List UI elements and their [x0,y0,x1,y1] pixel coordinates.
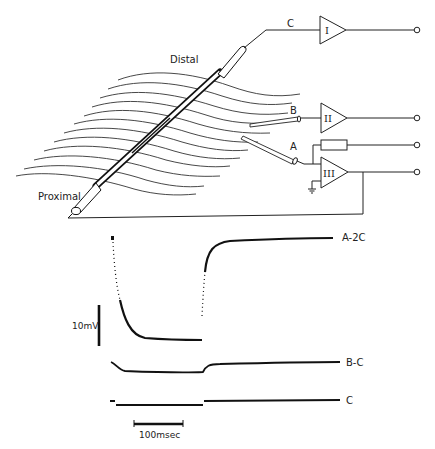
return-wire [68,172,363,218]
voltage-scale-bar: 10mV [72,305,99,346]
trace-label-a-2c: A-2C [342,232,366,243]
electrode-b: B [250,105,321,127]
amplifier-1-label: I [325,25,329,36]
nerve-fibers [16,73,300,195]
ground-icon [308,189,316,193]
electrode-a: A [241,136,313,165]
trace-c: C [110,395,353,406]
amplifier-1: I [320,16,420,44]
figure-canvas: Distal Proximal C I B II A III [0,0,435,449]
label-electrode-a: A [290,141,297,152]
amplifier-2-label: II [324,113,332,124]
output-terminal-2 [414,115,420,121]
amplifier-2: II [321,103,420,133]
label-electrode-c: C [287,18,294,29]
amplifier-3-label: III [323,168,335,179]
trace-b-c: B-C [111,357,363,372]
label-proximal: Proximal [38,191,81,202]
trace-a-2c: A-2C [111,232,366,340]
output-terminal-4 [414,169,420,175]
trace-label-b-c: B-C [346,357,363,368]
label-electrode-b: B [290,105,297,116]
time-scale-label: 100msec [139,430,180,440]
amplifier-3: III [68,140,420,218]
label-distal: Distal [170,54,199,65]
wire-c [244,30,320,48]
trace-label-c: C [346,395,353,406]
suction-electrode [68,46,246,218]
voltage-scale-label: 10mV [72,321,99,331]
output-terminal-3 [414,142,420,148]
feedback-resistor [321,140,347,150]
time-scale-bar: 100msec [134,420,183,440]
output-terminal-1 [414,27,420,33]
